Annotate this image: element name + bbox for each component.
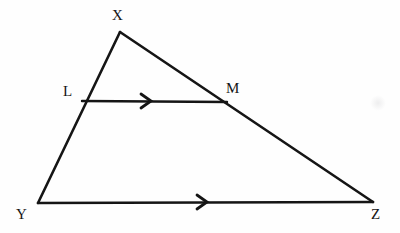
vertex-label-y: Y xyxy=(16,207,27,222)
geometry-figure: X Y Z L M xyxy=(0,0,400,233)
vertex-label-x: X xyxy=(112,8,123,23)
triangle-diagram-canvas xyxy=(0,0,400,233)
segment-xy xyxy=(38,32,120,203)
segment-lm xyxy=(82,101,227,102)
segment-xz xyxy=(120,32,373,202)
vertex-label-z: Z xyxy=(371,207,380,222)
vertex-label-m: M xyxy=(226,81,239,96)
vertex-label-l: L xyxy=(63,84,72,99)
